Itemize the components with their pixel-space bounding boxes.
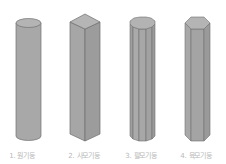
hexagonal-prism-shape <box>185 17 210 141</box>
label-square-prism: 2. 사모기둥 <box>68 150 100 160</box>
cylinder-shape <box>16 19 41 141</box>
prism-diagram <box>0 0 226 164</box>
label-hexagonal-prism: 4. 육모기둥 <box>180 150 212 160</box>
octagonal-prism-shape <box>130 17 155 141</box>
label-cylinder: 1. 원기둥 <box>9 150 35 160</box>
square-prism-shape <box>70 14 100 141</box>
label-octagonal-prism: 3. 팔모기둥 <box>125 150 157 160</box>
